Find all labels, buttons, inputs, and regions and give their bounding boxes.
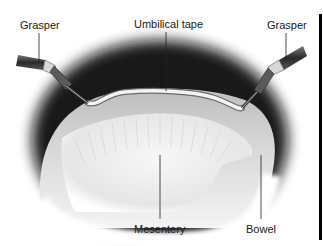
- illustration: Grasper Umbilical tape Grasper Mesentery…: [0, 0, 323, 246]
- label-umbilical-tape: Umbilical tape: [134, 18, 203, 30]
- label-bowel: Bowel: [246, 223, 276, 235]
- page-edge-bar: [319, 14, 322, 240]
- label-grasper-right: Grasper: [267, 19, 307, 31]
- label-mesentery: Mesentery: [134, 223, 185, 235]
- label-grasper-left: Grasper: [20, 19, 60, 31]
- bowel-illustration: [0, 0, 323, 246]
